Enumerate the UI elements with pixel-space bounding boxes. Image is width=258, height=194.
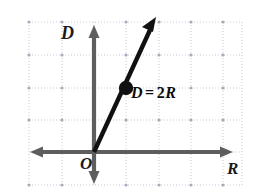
grid-node (189, 118, 192, 121)
grid-node (60, 118, 63, 121)
grid-node (60, 53, 63, 56)
horizontal-axis (30, 147, 233, 158)
equation-variable: D (131, 84, 143, 101)
coordinate-graph-figure: D R O D=2R (0, 0, 258, 194)
grid-node (27, 53, 30, 56)
grid-node (221, 20, 224, 23)
grid-node (27, 183, 30, 186)
grid-node (157, 118, 160, 121)
axis-arrow-left-icon (30, 147, 43, 158)
grid-node (189, 53, 192, 56)
grid-node (157, 53, 160, 56)
graph-canvas (0, 0, 258, 194)
axis-arrow-up-icon (89, 25, 100, 38)
grid-node (124, 118, 127, 121)
grid-node (189, 183, 192, 186)
grid-node (124, 20, 127, 23)
grid-node (124, 53, 127, 56)
grid-node (124, 183, 127, 186)
grid-node (60, 183, 63, 186)
grid-node (189, 86, 192, 89)
equation-equals-sign: = (143, 84, 157, 101)
line-arrow-icon (142, 17, 156, 32)
equation-expression-variable: R (165, 84, 176, 101)
equation-coefficient: 2 (157, 84, 166, 101)
vertical-axis-label: D (61, 24, 74, 42)
axis-arrow-right-icon (220, 147, 233, 158)
grid-node (189, 20, 192, 23)
grid-node (221, 53, 224, 56)
grid-node (60, 86, 63, 89)
grid-lines (29, 22, 242, 185)
grid-node (157, 20, 160, 23)
grid-node (221, 118, 224, 121)
grid-node (27, 20, 30, 23)
horizontal-axis-label: R (227, 160, 239, 177)
origin-label: O (80, 155, 92, 172)
grid-node (27, 118, 30, 121)
grid-node (221, 183, 224, 186)
equation-label: D=2R (131, 85, 176, 101)
grid-node (27, 86, 30, 89)
grid-node (221, 86, 224, 89)
grid-node (157, 183, 160, 186)
